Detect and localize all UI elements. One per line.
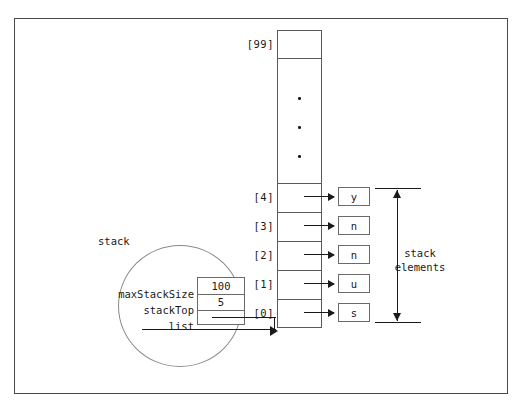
- value-box-0: s: [338, 303, 370, 322]
- list-pointer-arrow: [142, 329, 276, 330]
- array-index-3: [3]: [232, 221, 274, 232]
- field-value-list: [198, 310, 244, 326]
- field-value-maxstacksize: 100: [198, 278, 244, 294]
- ellipsis-dot: [298, 155, 301, 158]
- array-cell-divider: [277, 241, 322, 242]
- cell-to-value-arrow: [304, 196, 334, 197]
- stack-object-label: stack: [98, 236, 130, 247]
- array-index-2: [2]: [232, 250, 274, 261]
- cell-to-value-arrow: [304, 225, 334, 226]
- ellipsis-dot: [298, 97, 301, 100]
- array-index-4: [4]: [232, 192, 274, 203]
- value-box-3: n: [338, 216, 370, 235]
- bracket-bottom-cap: [375, 322, 421, 323]
- array-cell-divider: [277, 183, 322, 184]
- bracket-arrowhead-down: [393, 313, 401, 321]
- bracket-label: stack elements: [368, 246, 472, 274]
- value-box-2: n: [338, 245, 370, 264]
- array-cell-divider: [277, 299, 322, 300]
- bracket-label-line2: elements: [368, 260, 472, 274]
- bracket-top-cap: [375, 188, 421, 189]
- bracket-label-line1: stack: [368, 246, 472, 260]
- field-label-maxstacksize: maxStackSize: [108, 288, 194, 300]
- array-cell-divider: [277, 212, 322, 213]
- field-label-stacktop: stackTop: [108, 304, 194, 316]
- field-label-list: list: [108, 320, 194, 332]
- array-index-99: [99]: [232, 39, 274, 50]
- list-pointer-segment: [212, 317, 276, 318]
- diagram-frame: [14, 18, 508, 394]
- field-value-stacktop: 5: [198, 294, 244, 310]
- cell-to-value-arrow: [304, 254, 334, 255]
- bracket-arrowhead-up: [393, 190, 401, 198]
- array-cell-divider: [277, 270, 322, 271]
- ellipsis-dot: [298, 126, 301, 129]
- value-box-4: y: [338, 187, 370, 206]
- cell-to-value-arrow: [304, 283, 334, 284]
- diagram-canvas: [99] [4] [3] [2] [1] [0] y n n u s stack…: [0, 0, 521, 405]
- cell-to-value-arrow: [304, 312, 334, 313]
- value-box-1: u: [338, 274, 370, 293]
- array-cell-divider: [277, 58, 322, 59]
